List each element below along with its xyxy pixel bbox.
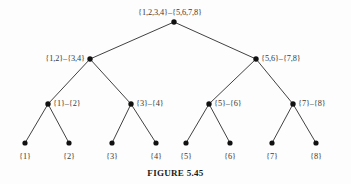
tree-edge <box>25 104 48 143</box>
tree-node-label: {5} <box>180 152 192 161</box>
tree-node-label: {5,6}–{7,8} <box>261 54 301 63</box>
tree-node-dot[interactable] <box>109 140 114 145</box>
tree-edge <box>293 104 316 143</box>
tree-node-label: {3} <box>106 152 118 161</box>
tree-edge <box>256 59 293 104</box>
tree-node-label: {1,2}–{3,4} <box>45 54 85 63</box>
tree-edge <box>186 104 209 143</box>
tree-node-dot[interactable] <box>128 101 133 106</box>
tree-node-dot[interactable] <box>22 140 27 145</box>
tree-edge <box>272 104 293 143</box>
tree-node-label: {1}–{2} <box>53 99 81 108</box>
tree-edges <box>25 22 316 143</box>
tree-node-label: {1,2,3,4}–{5,6,7,8} <box>138 8 202 17</box>
tree-node-dot[interactable] <box>45 101 50 106</box>
figure-caption: FIGURE 5.45 <box>0 168 351 178</box>
tree-edge <box>209 104 230 143</box>
tree-edge <box>90 59 131 104</box>
tree-node-dot[interactable] <box>227 140 232 145</box>
tree-nodes <box>22 19 318 145</box>
tree-node-dot[interactable] <box>183 140 188 145</box>
tree-edge <box>48 59 90 104</box>
tree-node-dot[interactable] <box>313 140 318 145</box>
tree-node-dot[interactable] <box>253 56 258 61</box>
tree-node-label: {7} <box>266 152 278 161</box>
tree-node-dot[interactable] <box>66 140 71 145</box>
tree-node-label: {4} <box>150 152 162 161</box>
binary-tree-diagram: {1,2,3,4}–{5,6,7,8}{1,2}–{3,4}{5,6}–{7,8… <box>0 0 351 184</box>
figure-container: {1,2,3,4}–{5,6,7,8}{1,2}–{3,4}{5,6}–{7,8… <box>0 0 351 184</box>
tree-node-label: {6} <box>224 152 236 161</box>
tree-node-label: {1} <box>19 152 31 161</box>
tree-node-label: {2} <box>63 152 75 161</box>
tree-edge <box>90 22 174 59</box>
tree-edge <box>112 104 131 143</box>
tree-node-label: {3}–{4} <box>136 99 164 108</box>
tree-node-dot[interactable] <box>290 101 295 106</box>
tree-edge <box>174 22 256 59</box>
tree-node-dot[interactable] <box>269 140 274 145</box>
tree-edge <box>209 59 256 104</box>
tree-node-dot[interactable] <box>87 56 92 61</box>
tree-node-label: {8} <box>310 152 322 161</box>
tree-node-dot[interactable] <box>153 140 158 145</box>
tree-edge <box>131 104 156 143</box>
tree-edge <box>48 104 69 143</box>
tree-node-labels: {1,2,3,4}–{5,6,7,8}{1,2}–{3,4}{5,6}–{7,8… <box>19 8 326 161</box>
tree-node-label: {5}–{6} <box>214 99 242 108</box>
tree-node-label: {7}–{8} <box>298 99 326 108</box>
tree-node-dot[interactable] <box>206 101 211 106</box>
tree-node-dot[interactable] <box>171 19 176 24</box>
